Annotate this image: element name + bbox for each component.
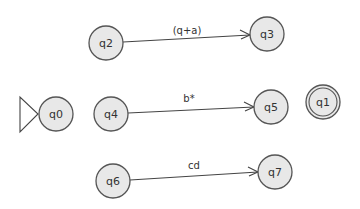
state-q2[interactable]: q2	[89, 26, 123, 60]
state-q0[interactable]: q0	[39, 97, 73, 131]
edge-q4-q5[interactable]: b*	[128, 93, 254, 113]
state-q1[interactable]: q1	[306, 85, 340, 119]
edge-label-q2-q3: (q+a)	[173, 25, 202, 36]
state-label-q1: q1	[316, 96, 330, 109]
state-q3[interactable]: q3	[250, 17, 284, 51]
arrowhead-icon	[240, 30, 250, 39]
state-label-q6: q6	[106, 175, 120, 188]
start-state-marker-icon	[20, 97, 38, 132]
state-label-q3: q3	[260, 28, 274, 41]
edge-label-q6-q7: cd	[188, 160, 200, 171]
state-q5[interactable]: q5	[254, 90, 288, 124]
edge-q6-q7[interactable]: cd	[130, 160, 258, 180]
state-label-q7: q7	[268, 166, 282, 179]
arrowhead-icon	[244, 102, 254, 111]
edge-q2-q3[interactable]: (q+a)	[123, 25, 250, 42]
automaton-canvas: (q+a) b* cd q0 q1 q2 q3 q4 q5 q6	[0, 0, 360, 209]
edge-label-q4-q5: b*	[183, 93, 194, 104]
state-q7[interactable]: q7	[258, 155, 292, 189]
state-label-q0: q0	[49, 108, 63, 121]
state-q4[interactable]: q4	[94, 97, 128, 131]
state-label-q4: q4	[104, 108, 118, 121]
state-q6[interactable]: q6	[96, 164, 130, 198]
arrowhead-icon	[248, 167, 258, 176]
state-label-q2: q2	[99, 37, 113, 50]
state-label-q5: q5	[264, 101, 278, 114]
